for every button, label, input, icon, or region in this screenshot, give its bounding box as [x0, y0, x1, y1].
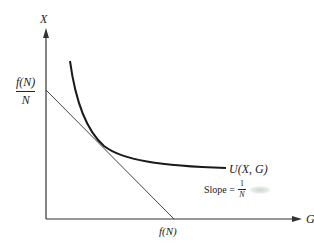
slope-prefix: Slope =: [204, 184, 235, 195]
budget-line: [46, 90, 174, 219]
y-intercept-numerator: f(N): [16, 75, 35, 90]
x-axis-label: G: [306, 213, 314, 225]
curve-label: U(X, G): [229, 163, 268, 175]
slope-fraction: 1 N: [238, 180, 246, 199]
diagram-canvas: [0, 0, 314, 246]
y-intercept-label: f(N) N: [16, 75, 35, 108]
slope-numerator: 1: [240, 180, 244, 188]
fraction-bar: [16, 91, 35, 92]
slope-denominator: N: [239, 191, 244, 199]
smudge-artifact: [249, 186, 271, 194]
indifference-curve: [70, 61, 226, 168]
x-intercept-label: f(N): [159, 226, 177, 237]
y-axis-arrow-icon: [43, 28, 49, 38]
x-axis-arrow-icon: [292, 216, 302, 222]
y-intercept-denominator: N: [16, 93, 35, 108]
slope-annotation: Slope = 1 N: [204, 180, 271, 199]
y-axis-label: X: [40, 13, 47, 25]
